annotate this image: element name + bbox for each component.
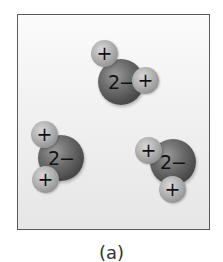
hydrogen-atom: + — [91, 40, 118, 67]
hydrogen-atom: + — [31, 121, 58, 148]
hydrogen-atom: + — [159, 176, 186, 203]
hydrogen-atom: + — [32, 166, 59, 193]
hydrogen-atom: + — [132, 67, 159, 94]
figure-caption: (a) — [0, 242, 223, 262]
hydrogen-atom: + — [135, 137, 162, 164]
